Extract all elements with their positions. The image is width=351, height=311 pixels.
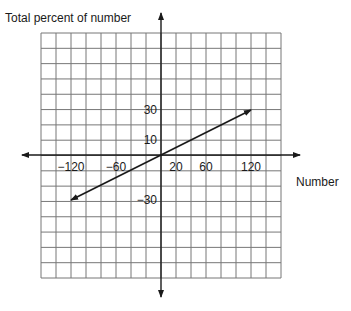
x-axis-label: Number: [296, 175, 339, 189]
y-tick-label: 10: [144, 133, 158, 147]
x-tick-label: 60: [199, 160, 213, 174]
y-axis-label: Total percent of number: [5, 11, 131, 25]
y-tick-label: −30: [137, 193, 158, 207]
x-tick-label: −120: [57, 160, 84, 174]
x-tick-label: 120: [241, 160, 261, 174]
x-tick-label: −60: [106, 160, 127, 174]
y-tick-label: 30: [144, 103, 158, 117]
x-tick-label: 20: [169, 160, 183, 174]
chart: −120−6020601203010−30 Total percent of n…: [0, 0, 351, 311]
